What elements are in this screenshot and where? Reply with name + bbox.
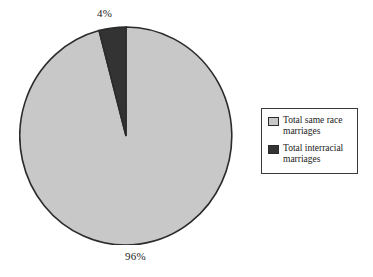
slice-label-same-race: 96%	[125, 250, 146, 262]
legend-swatch-icon-interracial	[268, 145, 279, 154]
pie-chart: 4% 96% Total same race marriages Total i…	[0, 0, 373, 277]
pie-svg	[19, 26, 233, 245]
legend-label-interracial: Total interracial marriages	[283, 143, 352, 165]
pie-graphic	[19, 26, 233, 245]
legend-item-same-race: Total same race marriages	[268, 115, 352, 137]
legend-label-same-race: Total same race marriages	[283, 115, 352, 137]
slice-label-interracial: 4%	[97, 7, 112, 19]
legend-swatch-icon-same-race	[268, 117, 279, 126]
legend-item-interracial: Total interracial marriages	[268, 143, 352, 165]
chart-legend: Total same race marriages Total interrac…	[261, 108, 358, 174]
